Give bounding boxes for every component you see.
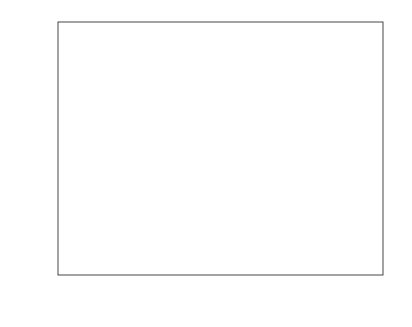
log-log-plot (0, 0, 412, 327)
figure-background (0, 0, 412, 327)
chart-figure (0, 0, 412, 327)
